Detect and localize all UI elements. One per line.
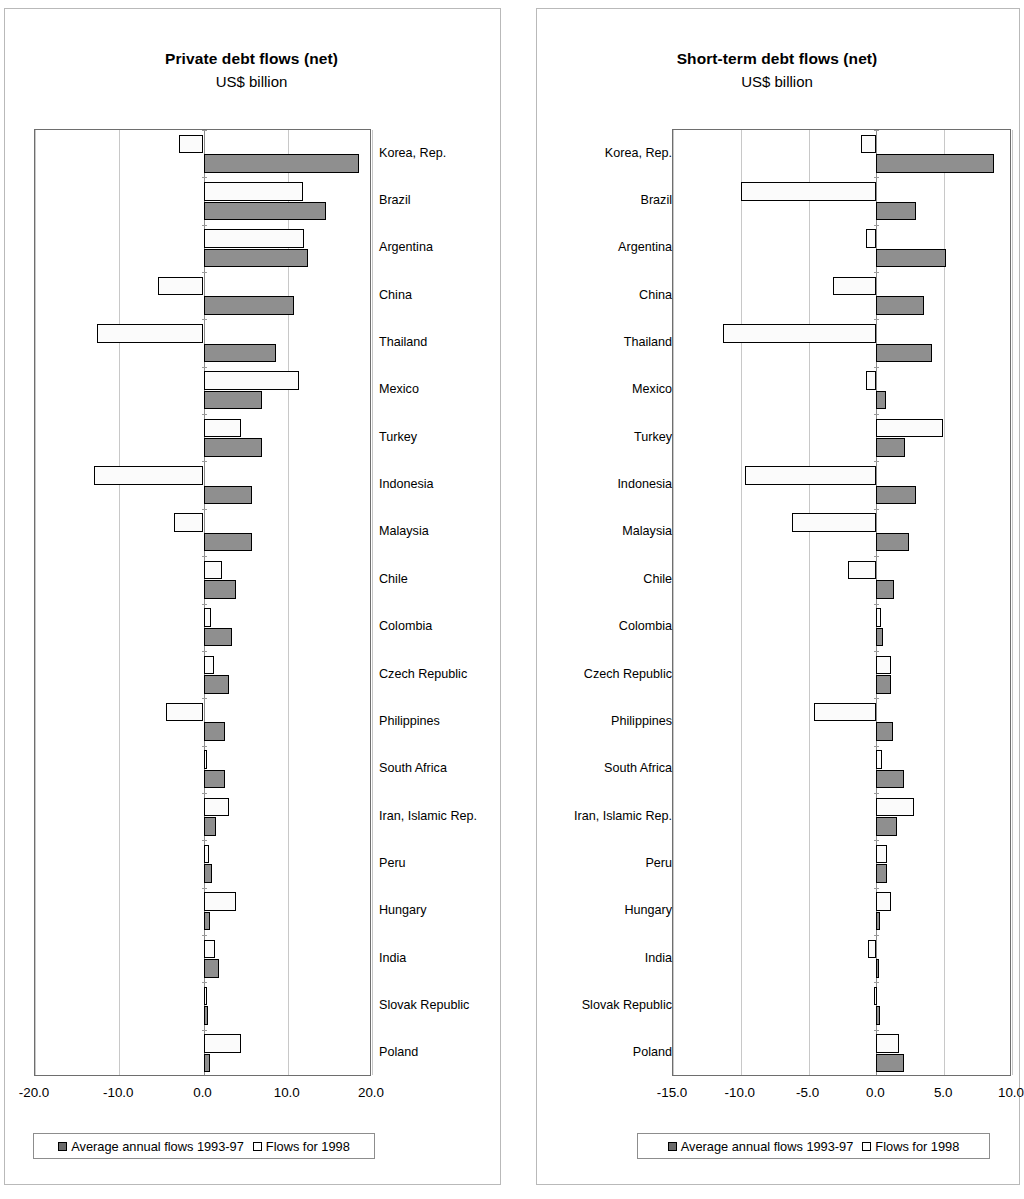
category-label: Brazil <box>379 193 411 207</box>
bar-flows-1998 <box>204 940 216 959</box>
category-label: Korea, Rep. <box>605 146 672 160</box>
axis-tick <box>202 840 207 841</box>
bar-flows-1998 <box>174 513 203 532</box>
bar-average-1993-97 <box>204 1006 208 1025</box>
bar-flows-1998 <box>204 892 237 911</box>
category-label: Colombia <box>619 619 672 633</box>
bar-average-1993-97 <box>876 486 915 505</box>
bar-flows-1998 <box>204 656 214 675</box>
gridline <box>944 130 945 1075</box>
bar-average-1993-97 <box>876 580 894 599</box>
bar-flows-1998 <box>204 229 304 248</box>
bar-average-1993-97 <box>204 912 211 931</box>
legend-label-dark: Average annual flows 1993-97 <box>71 1139 244 1154</box>
axis-tick <box>202 130 207 131</box>
bar-flows-1998 <box>876 892 891 911</box>
category-label: India <box>379 951 406 965</box>
bar-average-1993-97 <box>204 1054 211 1073</box>
axis-tick <box>202 272 207 273</box>
axis-tick <box>202 651 207 652</box>
bar-flows-1998 <box>876 1034 899 1053</box>
category-label: Chile <box>643 572 672 586</box>
bar-flows-1998 <box>179 135 203 154</box>
bar-average-1993-97 <box>204 959 219 978</box>
category-label: Czech Republic <box>584 667 672 681</box>
category-label: Korea, Rep. <box>379 146 446 160</box>
bar-average-1993-97 <box>204 770 225 789</box>
category-label: Thailand <box>624 335 672 349</box>
bar-flows-1998 <box>204 182 303 201</box>
bar-average-1993-97 <box>204 486 253 505</box>
axis-tick <box>874 367 879 368</box>
bar-average-1993-97 <box>204 154 359 173</box>
bar-average-1993-97 <box>876 438 904 457</box>
bar-flows-1998 <box>166 703 203 722</box>
chart-subtitle-shortterm: US$ billion <box>536 73 1018 90</box>
axis-tick <box>202 319 207 320</box>
category-label: India <box>645 951 672 965</box>
gridline <box>119 130 120 1075</box>
axis-tick <box>874 793 879 794</box>
category-label: Mexico <box>379 382 419 396</box>
bar-flows-1998 <box>204 845 210 864</box>
bar-flows-1998 <box>204 608 212 627</box>
legend-item-dark: Average annual flows 1993-97 <box>58 1139 244 1154</box>
bar-average-1993-97 <box>876 296 923 315</box>
bar-average-1993-97 <box>204 628 233 647</box>
legend-swatch-dark-icon <box>668 1142 677 1151</box>
category-label: China <box>379 288 412 302</box>
bar-average-1993-97 <box>204 296 294 315</box>
bar-average-1993-97 <box>876 770 903 789</box>
axis-tick <box>202 888 207 889</box>
bar-flows-1998 <box>814 703 876 722</box>
bar-flows-1998 <box>833 277 876 296</box>
category-label: Peru <box>645 856 672 870</box>
gridline <box>741 130 742 1075</box>
legend-shortterm: Average annual flows 1993-97 Flows for 1… <box>637 1133 990 1159</box>
bar-flows-1998 <box>204 987 207 1006</box>
bar-flows-1998 <box>204 1034 242 1053</box>
bar-flows-1998 <box>876 798 914 817</box>
x-axis-tick-label: -5.0 <box>796 1085 819 1100</box>
category-label: Malaysia <box>622 524 672 538</box>
axis-tick <box>874 935 879 936</box>
bar-average-1993-97 <box>204 533 252 552</box>
category-label: Poland <box>633 1045 672 1059</box>
axis-tick <box>874 509 879 510</box>
x-axis-tick-label: 20.0 <box>358 1085 384 1100</box>
x-axis-tick-label: -10.0 <box>725 1085 756 1100</box>
bar-flows-1998 <box>204 750 207 769</box>
bar-average-1993-97 <box>876 202 915 221</box>
bar-average-1993-97 <box>876 533 909 552</box>
bar-average-1993-97 <box>876 344 932 363</box>
bar-flows-1998 <box>876 608 881 627</box>
axis-tick <box>874 888 879 889</box>
bar-flows-1998 <box>876 845 887 864</box>
bar-average-1993-97 <box>204 722 226 741</box>
category-label: Malaysia <box>379 524 429 538</box>
category-label: Indonesia <box>379 477 434 491</box>
legend-item-dark: Average annual flows 1993-97 <box>668 1139 854 1154</box>
bar-average-1993-97 <box>876 628 883 647</box>
category-label: Argentina <box>379 240 433 254</box>
plot-area-shortterm <box>672 129 1011 1076</box>
x-axis-tick-label: 10.0 <box>274 1085 300 1100</box>
axis-tick <box>202 414 207 415</box>
axis-tick <box>202 746 207 747</box>
category-label: Slovak Republic <box>582 998 672 1012</box>
chart-title-shortterm: Short-term debt flows (net) <box>536 50 1018 68</box>
axis-tick <box>874 130 879 131</box>
category-label: Slovak Republic <box>379 998 469 1012</box>
category-label: Hungary <box>624 903 672 917</box>
bar-average-1993-97 <box>876 391 885 410</box>
bar-average-1993-97 <box>204 202 326 221</box>
axis-tick <box>874 840 879 841</box>
axis-tick <box>874 272 879 273</box>
bar-flows-1998 <box>97 324 203 343</box>
bar-flows-1998 <box>158 277 203 296</box>
axis-tick <box>202 935 207 936</box>
bar-flows-1998 <box>94 466 204 485</box>
category-label: Mexico <box>632 382 672 396</box>
bar-average-1993-97 <box>204 438 262 457</box>
category-label: Iran, Islamic Rep. <box>379 809 477 823</box>
